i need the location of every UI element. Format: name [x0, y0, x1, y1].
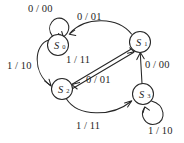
state-subscript-s1: 1: [144, 40, 147, 47]
state-label-s1: S: [136, 37, 142, 48]
state-subscript-s0: 0: [62, 43, 65, 50]
edge-label-s2-to-s1: 0 / 01: [86, 75, 111, 86]
edge-label-s2-to-s3: 1 / 11: [76, 121, 100, 132]
state-node-s3[interactable]: S 3: [133, 84, 154, 105]
state-node-s0[interactable]: S 0: [48, 35, 69, 56]
transition-s1-to-s0: [69, 21, 131, 36]
arrowhead-s0-s2: [45, 79, 52, 86]
state-subscript-s2: 2: [66, 87, 69, 94]
edge-label-s3-to-s1: 0 / 00: [145, 60, 170, 71]
state-label-s3: S: [139, 89, 145, 100]
transition-s3-to-s1: [137, 53, 144, 84]
state-machine-diagram: S 0 S 1 S 2 S 3 0 / 00 0 / 01 1 / 10 1 /…: [0, 0, 184, 143]
state-label-s0: S: [54, 40, 60, 51]
edge-path-s3-s1: [140, 54, 142, 84]
state-subscript-s3: 3: [147, 92, 150, 99]
edge-path-s2-s3: [67, 99, 132, 113]
edge-label-s3-self-loop: 1 / 10: [148, 126, 173, 137]
edge-path-s1-s0: [70, 21, 132, 34]
state-node-s2[interactable]: S 2: [52, 79, 73, 100]
edge-label-s1-to-s2: 1 / 11: [66, 55, 90, 66]
state-node-s1[interactable]: S 1: [130, 32, 151, 53]
transition-s2-to-s3: [67, 99, 132, 113]
edge-label-s0-self-loop: 0 / 00: [28, 4, 53, 15]
state-label-s2: S: [58, 84, 64, 95]
edge-label-s0-to-s2: 1 / 10: [7, 61, 32, 72]
edge-label-s1-to-s0: 0 / 01: [77, 12, 102, 23]
